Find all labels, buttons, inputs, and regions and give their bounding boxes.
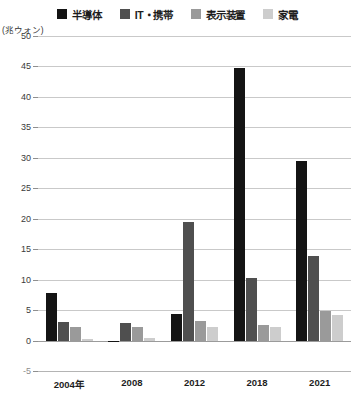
x-axis-tick-label: 2018	[247, 377, 268, 388]
x-axis-tick-label: 2021	[309, 377, 330, 388]
bar[interactable]	[46, 293, 57, 341]
bar[interactable]	[195, 321, 206, 340]
bar[interactable]	[270, 327, 281, 341]
bar[interactable]	[296, 161, 307, 340]
bar[interactable]	[120, 323, 131, 341]
bar[interactable]	[320, 311, 331, 340]
bar[interactable]	[171, 314, 182, 340]
x-axis-tick-label: 2008	[121, 377, 142, 388]
bar[interactable]	[207, 327, 218, 340]
bar[interactable]	[144, 338, 155, 340]
bar[interactable]	[258, 325, 269, 341]
bar[interactable]	[70, 327, 81, 340]
bar[interactable]	[108, 341, 119, 343]
bar-series-container: 2004年2008201220182021	[0, 0, 355, 407]
x-axis-tick-label: 2004年	[54, 377, 85, 391]
bar[interactable]	[332, 315, 343, 341]
bar[interactable]	[234, 68, 245, 340]
bar[interactable]	[308, 256, 319, 341]
bar[interactable]	[132, 327, 143, 341]
bar[interactable]	[58, 322, 69, 340]
bar[interactable]	[246, 278, 257, 341]
x-axis-tick-label: 2012	[184, 377, 205, 388]
bar[interactable]	[183, 222, 194, 341]
bar[interactable]	[82, 339, 93, 341]
